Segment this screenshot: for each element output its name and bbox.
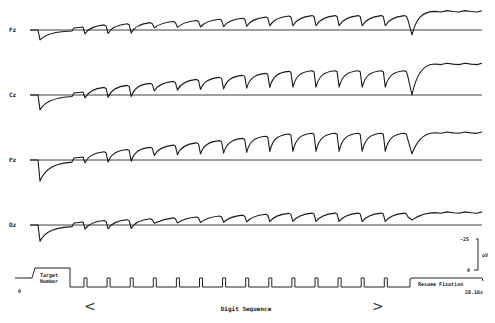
channel-label-pz: Pz (9, 156, 17, 163)
scale-top-label: -25 (460, 236, 469, 242)
trace-oz (30, 212, 482, 241)
channel-label-cz: Cz (9, 91, 17, 98)
trace-fz (30, 11, 482, 40)
time-start-label: 0 (18, 288, 21, 294)
scale-bottom-label: 0 (467, 267, 470, 273)
time-end-label: 28.16s (465, 289, 483, 295)
trace-pz (30, 132, 482, 181)
channel-label-oz: Oz (9, 221, 17, 228)
channel-traces: FzCzPzOz (9, 11, 482, 241)
event-timeline: Target Number 0 Resume Fixation 28.16s (15, 268, 483, 295)
sequence-left-arrow: < (84, 298, 96, 314)
channel-label-fz: Fz (9, 26, 17, 33)
scale-bar-line (474, 239, 478, 270)
erp-figure: FzCzPzOz -25 0 uV Target Number 0 Resume… (0, 0, 495, 323)
target-label-line2: Number (40, 278, 58, 284)
trace-cz (30, 63, 482, 110)
scale-bar: -25 0 uV (460, 236, 488, 273)
scale-unit-label: uV (482, 252, 488, 258)
sequence-right-arrow: > (372, 298, 384, 314)
x-axis-label: Digit Sequence (221, 305, 272, 313)
timeline-trace (15, 268, 483, 287)
resume-fixation-label: Resume Fixation (418, 281, 463, 287)
